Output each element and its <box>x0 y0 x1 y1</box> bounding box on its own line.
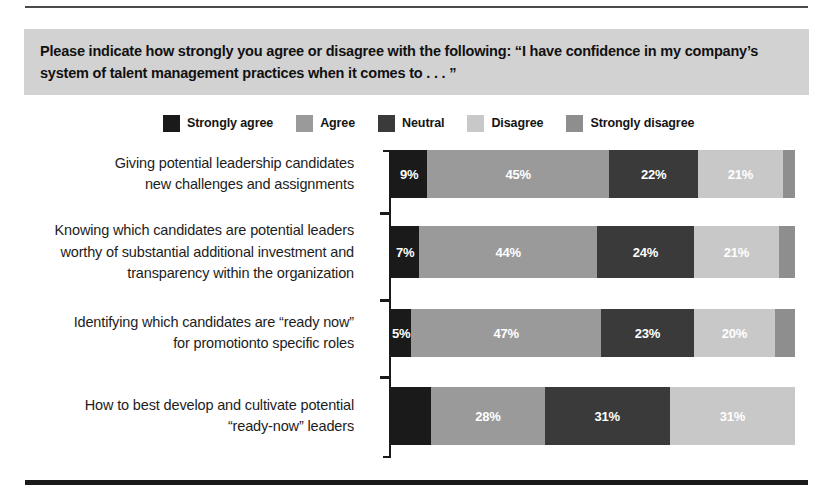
bar-segment-value: 21% <box>728 167 753 182</box>
bar-segment-agree[interactable]: 45% <box>427 150 609 198</box>
bar-segment-disagree[interactable]: 20% <box>694 309 775 357</box>
bar-segment-value: 7% <box>396 245 414 260</box>
category-label: Identifying which candidates are “ready … <box>0 312 368 354</box>
bar-segment-neutral[interactable]: 22% <box>609 150 698 198</box>
bar-segment-strongly-agree[interactable]: 7% <box>391 226 419 278</box>
bar-segment-value: 47% <box>493 326 518 341</box>
axis-tick-3 <box>380 376 391 379</box>
bar-segment-agree[interactable]: 47% <box>411 309 601 357</box>
chart-plot-area: Giving potential leadership candidatesne… <box>0 144 833 464</box>
legend-label: Strongly agree <box>187 116 273 130</box>
chart-title-band: Please indicate how strongly you agree o… <box>24 29 809 95</box>
bar-segment-value: 20% <box>722 326 747 341</box>
bar-segment-agree[interactable]: 28% <box>431 387 544 445</box>
category-label: How to best develop and cultivate potent… <box>0 395 368 437</box>
bar-segment-strongly-disagree[interactable] <box>775 309 795 357</box>
chart-row: How to best develop and cultivate potent… <box>0 387 833 445</box>
axis-tick-1 <box>380 212 391 215</box>
category-label-line: How to best develop and cultivate potent… <box>0 395 354 416</box>
bar-segment-value: 28% <box>475 409 500 424</box>
bar-segment-neutral[interactable]: 23% <box>601 309 694 357</box>
category-label-line: new challenges and assignments <box>0 174 354 195</box>
chart-row: Identifying which candidates are “ready … <box>0 309 833 357</box>
category-label-line: “ready-now” leaders <box>0 416 354 437</box>
axis-tick-2 <box>380 299 391 302</box>
category-label-line: for promotionto specific roles <box>0 333 354 354</box>
legend-label: Disagree <box>491 116 543 130</box>
category-label-line: Identifying which candidates are “ready … <box>0 312 354 333</box>
bar-segment-agree[interactable]: 44% <box>419 226 597 278</box>
bottom-divider-rule <box>25 480 808 485</box>
legend-swatch-icon <box>296 115 313 132</box>
bar-segment-value: 21% <box>724 245 749 260</box>
category-label-line: Knowing which candidates are potential l… <box>0 220 354 241</box>
axis-cap-bottom <box>383 456 391 458</box>
legend-label: Agree <box>320 116 355 130</box>
bar-segment-strongly-agree[interactable]: 5% <box>391 309 411 357</box>
bar-segment-value: 31% <box>720 409 745 424</box>
bar-segment-neutral[interactable]: 24% <box>597 226 694 278</box>
stacked-bar: 28%31%31% <box>391 387 795 445</box>
bar-segment-disagree[interactable]: 21% <box>694 226 779 278</box>
bar-segment-disagree[interactable]: 31% <box>670 387 795 445</box>
legend-item-agree[interactable]: Agree <box>296 115 355 132</box>
legend-swatch-icon <box>467 115 484 132</box>
category-label: Giving potential leadership candidatesne… <box>0 153 368 195</box>
bar-segment-value: 22% <box>641 167 666 182</box>
category-label-line: worthy of substantial additional investm… <box>0 242 354 263</box>
stacked-bar: 5%47%23%20% <box>391 309 795 357</box>
category-label-line: Giving potential leadership candidates <box>0 153 354 174</box>
stacked-bar: 9%45%22%21% <box>391 150 795 198</box>
top-divider-rule <box>25 6 808 8</box>
legend-swatch-icon <box>163 115 180 132</box>
bar-segment-strongly-agree[interactable] <box>391 387 431 445</box>
legend-item-strongly-agree[interactable]: Strongly agree <box>163 115 273 132</box>
chart-legend: Strongly agreeAgreeNeutralDisagreeStrong… <box>163 112 803 134</box>
category-label: Knowing which candidates are potential l… <box>0 220 368 283</box>
legend-item-neutral[interactable]: Neutral <box>378 115 444 132</box>
category-label-line: transparency within the organization <box>0 263 354 284</box>
bar-segment-strongly-disagree[interactable] <box>779 226 795 278</box>
legend-swatch-icon <box>566 115 583 132</box>
chart-row: Knowing which candidates are potential l… <box>0 226 833 278</box>
bar-segment-disagree[interactable]: 21% <box>698 150 783 198</box>
bar-segment-neutral[interactable]: 31% <box>545 387 670 445</box>
chart-row: Giving potential leadership candidatesne… <box>0 150 833 198</box>
legend-swatch-icon <box>378 115 395 132</box>
page-title: Please indicate how strongly you agree o… <box>40 40 787 85</box>
bar-segment-value: 5% <box>392 326 410 341</box>
bar-segment-value: 45% <box>506 167 531 182</box>
legend-label: Neutral <box>402 116 444 130</box>
chart-figure: Please indicate how strongly you agree o… <box>0 0 833 498</box>
legend-item-strongly-disagree[interactable]: Strongly disagree <box>566 115 694 132</box>
bar-segment-value: 23% <box>635 326 660 341</box>
legend-item-disagree[interactable]: Disagree <box>467 115 543 132</box>
bar-segment-value: 44% <box>495 245 520 260</box>
bar-segment-value: 31% <box>594 409 619 424</box>
bar-segment-value: 24% <box>633 245 658 260</box>
bar-segment-strongly-disagree[interactable] <box>783 150 795 198</box>
legend-label: Strongly disagree <box>590 116 694 130</box>
stacked-bar: 7%44%24%21% <box>391 226 795 278</box>
bar-segment-strongly-agree[interactable]: 9% <box>391 150 427 198</box>
bar-segment-value: 9% <box>400 167 418 182</box>
